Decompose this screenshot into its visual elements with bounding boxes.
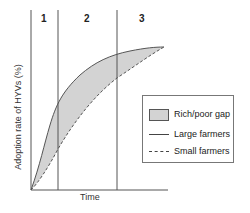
period-label-3: 3 bbox=[139, 13, 145, 24]
legend-small-label: Small farmers bbox=[174, 146, 230, 156]
x-axis-label: Time bbox=[80, 192, 100, 202]
solid-line-icon bbox=[149, 134, 169, 135]
legend-item-large: Large farmers bbox=[149, 129, 230, 139]
legend-item-gap: Rich/poor gap bbox=[149, 109, 230, 121]
gap-swatch-icon bbox=[149, 109, 169, 121]
legend-gap-label: Rich/poor gap bbox=[174, 109, 230, 119]
dashed-line-icon bbox=[149, 151, 169, 152]
legend-item-small: Small farmers bbox=[149, 146, 230, 156]
period-label-1: 1 bbox=[41, 13, 47, 24]
period-label-2: 2 bbox=[84, 13, 90, 24]
legend: Rich/poor gap Large farmers Small farmer… bbox=[142, 95, 234, 163]
legend-large-label: Large farmers bbox=[174, 129, 230, 139]
y-axis-label: Adoption rate of HYVs (%) bbox=[13, 47, 23, 187]
